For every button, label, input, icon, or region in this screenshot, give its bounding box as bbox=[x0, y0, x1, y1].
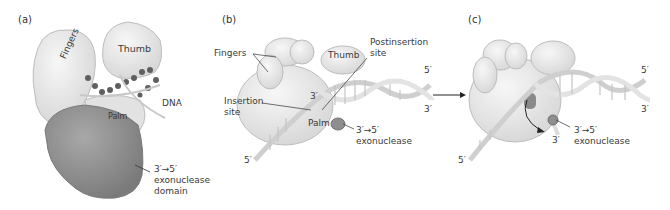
dna-label-a: DNA bbox=[162, 98, 182, 108]
three-prime-right-b: 3′ bbox=[424, 104, 432, 114]
exo-label-c-line2: exonuclease bbox=[574, 136, 630, 146]
fingers-label-b: Fingers bbox=[214, 48, 246, 58]
five-prime-bottom-b: 5′ bbox=[244, 155, 252, 165]
exo-label-c-line1: 3′→5′ bbox=[574, 125, 597, 135]
five-prime-top-b: 5′ bbox=[424, 65, 432, 75]
exo-label-a-line2: exonuclease bbox=[154, 175, 210, 185]
five-prime-top-c: 5′ bbox=[641, 65, 649, 75]
postinsertion-label-line1: Postinsertion bbox=[370, 37, 428, 47]
exo-label-a-line1: 3′→5′ bbox=[154, 164, 177, 174]
insertion-label-line2: site bbox=[224, 107, 240, 117]
three-prime-bottom-c: 3′ bbox=[552, 135, 560, 145]
insertion-label-line1: Insertion bbox=[224, 96, 264, 106]
fingers-side bbox=[257, 55, 283, 89]
palm-label-a: Palm bbox=[108, 112, 127, 122]
three-prime-label-b: 3′ bbox=[310, 91, 318, 101]
panel-b-tag: (b) bbox=[222, 14, 236, 25]
panel-a-tag: (a) bbox=[18, 14, 32, 25]
five-prime-bottom-c: 5′ bbox=[458, 155, 466, 165]
palm-label-b: Palm bbox=[308, 118, 330, 128]
exo-label-b-line1: 3′→5′ bbox=[356, 125, 379, 135]
polymerase-diagram bbox=[0, 0, 670, 210]
exo-label-b-line2: exonuclease bbox=[356, 136, 412, 146]
exonuclease-domain bbox=[45, 105, 143, 198]
three-prime-right-c: 3′ bbox=[641, 104, 649, 114]
transition-arrow bbox=[433, 92, 466, 98]
exo-label-a-line3: domain bbox=[154, 186, 188, 196]
postinsertion-label-line2: site bbox=[370, 48, 386, 58]
thumb-label-b: Thumb bbox=[328, 50, 359, 60]
panel-c-tag: (c) bbox=[468, 14, 481, 25]
exonuclease-site-b bbox=[331, 118, 345, 130]
thumb-label-a: Thumb bbox=[118, 44, 151, 54]
